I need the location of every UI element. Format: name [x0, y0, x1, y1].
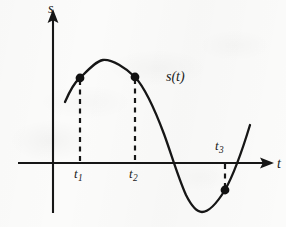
- point-marker-t2: [131, 73, 140, 82]
- tick-label-t2: t2: [129, 167, 138, 183]
- point-marker-t3: [221, 186, 230, 195]
- tick-label-t1-subscript: 1: [78, 173, 83, 183]
- figure-canvas: s t s(t) t1 t2 t3: [0, 0, 286, 227]
- point-marker-t1: [76, 74, 85, 83]
- t-axis-label: t: [277, 157, 281, 171]
- plot-svg: [0, 0, 286, 227]
- tick-label-t2-subscript: 2: [133, 173, 138, 183]
- tick-label-t1: t1: [74, 167, 83, 183]
- s-axis-label: s: [48, 2, 53, 16]
- tick-label-t3: t3: [215, 139, 224, 155]
- tick-label-t3-subscript: 3: [219, 145, 224, 155]
- curve-label-s-of-t: s(t): [166, 70, 185, 84]
